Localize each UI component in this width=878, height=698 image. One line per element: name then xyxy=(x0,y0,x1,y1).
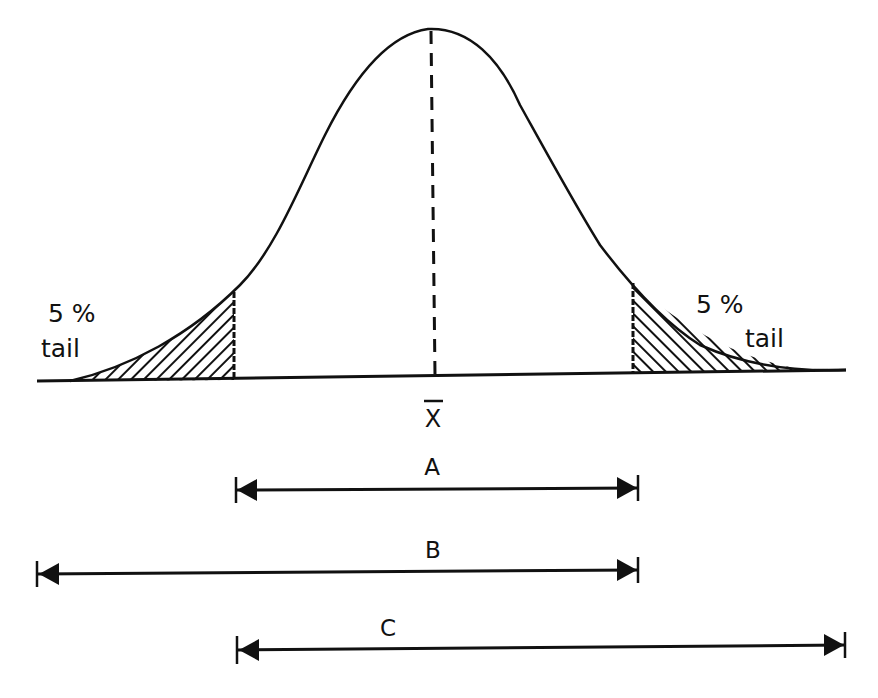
left-tail-word-label: tail xyxy=(41,334,80,363)
right-tail-percent-label: 5 % xyxy=(696,290,744,319)
bell-curve xyxy=(70,29,846,381)
range-arrow-b: B xyxy=(37,537,638,587)
mean-dashed-line xyxy=(431,31,435,375)
diagram-svg: X 5 % tail 5 % tail A B xyxy=(0,0,878,698)
mean-label: X xyxy=(425,405,441,433)
range-c-label: C xyxy=(380,615,396,641)
range-arrow-c: C xyxy=(237,615,845,664)
range-a-label: A xyxy=(424,454,440,480)
normal-distribution-diagram: X 5 % tail 5 % tail A B xyxy=(0,0,878,698)
range-arrow-a: A xyxy=(235,454,638,503)
left-tail-percent-label: 5 % xyxy=(48,299,96,328)
range-b-label: B xyxy=(425,537,441,563)
right-tail-word-label: tail xyxy=(745,324,784,353)
